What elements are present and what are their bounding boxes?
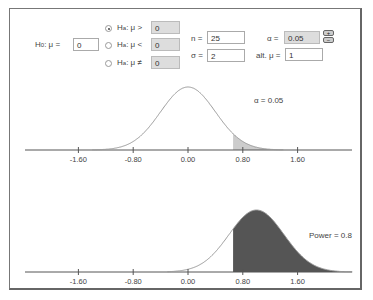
null-distribution-chart: -1.60-0.800.000.801.60 xyxy=(25,87,352,164)
power-charts: -1.60-0.800.000.801.60 -1.60-0.800.000.8… xyxy=(0,0,373,300)
svg-text:-1.60: -1.60 xyxy=(70,277,87,286)
svg-text:-0.80: -0.80 xyxy=(125,277,142,286)
alt-distribution-chart: -1.60-0.800.000.801.60 xyxy=(25,210,352,286)
svg-text:1.60: 1.60 xyxy=(290,155,305,164)
svg-text:-1.60: -1.60 xyxy=(70,155,87,164)
svg-text:0.00: 0.00 xyxy=(181,155,196,164)
svg-text:0.80: 0.80 xyxy=(235,277,250,286)
svg-text:0.80: 0.80 xyxy=(235,155,250,164)
svg-text:1.60: 1.60 xyxy=(290,277,305,286)
alpha-annotation: α = 0.05 xyxy=(254,96,283,106)
power-annotation: Power = 0.8 xyxy=(309,231,352,241)
svg-text:-0.80: -0.80 xyxy=(125,155,142,164)
svg-text:0.00: 0.00 xyxy=(181,277,196,286)
